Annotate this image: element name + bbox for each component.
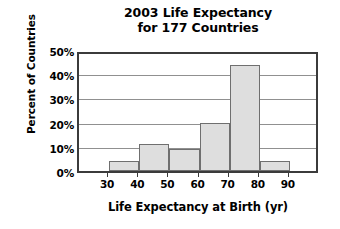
x-axis-tick-mark: [167, 173, 168, 177]
plot-area: [77, 52, 318, 173]
histogram-bar: [139, 144, 169, 171]
x-axis-tick-label: 80: [243, 178, 273, 190]
y-axis-tick-label: 20%: [34, 120, 74, 130]
chart-title-line-1: 2003 Life Expectancy: [70, 5, 326, 20]
x-axis-tick-mark: [198, 173, 199, 177]
y-axis-tick-label: 0%: [34, 168, 74, 178]
histogram-bar: [200, 123, 230, 171]
histogram-bar: [109, 161, 139, 171]
x-axis-title: Life Expectancy at Birth (yr): [70, 200, 326, 214]
x-axis-tick-mark: [228, 173, 229, 177]
histogram-bar: [260, 161, 290, 171]
x-axis-tick-label: 70: [213, 178, 243, 190]
x-axis-tick-mark: [258, 173, 259, 177]
x-axis-tick-mark: [107, 173, 108, 177]
gridline: [79, 124, 316, 125]
x-axis-tick-label: 90: [273, 178, 303, 190]
x-axis-tick-mark: [288, 173, 289, 177]
histogram-figure: 2003 Life Expectancy for 177 Countries P…: [0, 0, 340, 229]
gridline: [79, 99, 316, 100]
x-axis-tick-label: 30: [92, 178, 122, 190]
gridline: [79, 75, 316, 76]
y-axis-tick-label: 40%: [34, 71, 74, 81]
x-axis-tick-label: 60: [183, 178, 213, 190]
y-axis-tick-label: 10%: [34, 144, 74, 154]
x-axis-tick-label: 40: [122, 178, 152, 190]
chart-title: 2003 Life Expectancy for 177 Countries: [70, 5, 326, 35]
y-axis-tick-label: 50%: [34, 47, 74, 57]
chart-title-line-2: for 177 Countries: [70, 20, 326, 35]
y-axis-tick-label: 30%: [34, 95, 74, 105]
histogram-bar: [230, 65, 260, 171]
x-axis-tick-mark: [137, 173, 138, 177]
x-axis-tick-label: 50: [152, 178, 182, 190]
histogram-bar: [169, 149, 199, 171]
